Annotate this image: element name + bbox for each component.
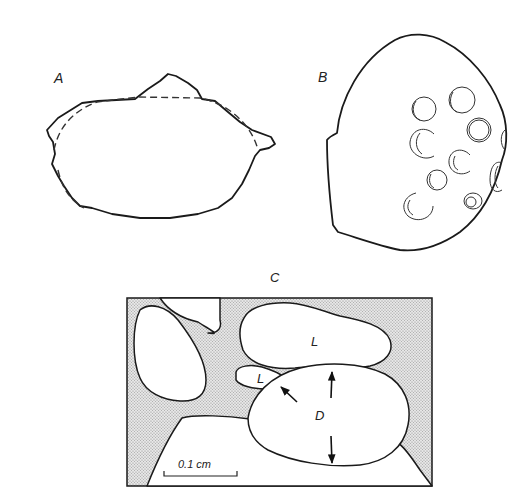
label-long-axis-small: L <box>257 371 264 386</box>
panel-b-label: B <box>318 69 327 85</box>
scale-bar-label: 0.1 cm <box>178 458 211 470</box>
arrow-down-icon <box>331 436 332 463</box>
label-diameter: D <box>315 408 324 423</box>
panel-a-label: A <box>53 70 63 86</box>
panel-c: C L L D 0.1 cm <box>127 270 432 486</box>
panel-b: B <box>318 35 506 251</box>
label-long-axis-upper: L <box>311 334 318 349</box>
grain-a-outline <box>47 74 275 218</box>
panel-a: A <box>47 70 275 218</box>
arrow-up-icon <box>331 372 332 398</box>
panel-c-label: C <box>270 270 280 285</box>
figure-canvas: A B C <box>0 0 529 500</box>
